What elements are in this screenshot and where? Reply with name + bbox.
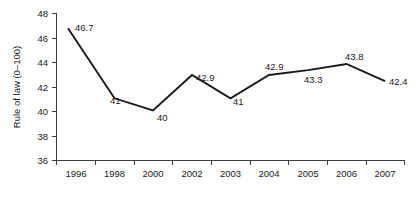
x-tick-label-1996: 1996 [65,168,86,179]
y-tick-label: 38 [37,131,48,142]
data-label-2007: 42.4 [389,76,408,87]
data-label-2006: 43.8 [345,51,364,62]
data-label-1996: 46.7 [75,22,94,33]
y-tick-label: 48 [37,8,48,19]
x-tick-label-2006: 2006 [336,168,357,179]
data-label-2003: 41 [233,96,244,107]
y-tick-label: 36 [37,155,48,166]
y-axis-title: Rule of law (0–100) [11,46,22,128]
y-tick-label: 44 [37,57,48,68]
data-point-labels: 46.7 41 40 42.9 41 42.9 43.3 43.8 42.4 [75,22,408,123]
x-tick-label-1998: 1998 [104,168,125,179]
x-axis-ticks [57,161,405,166]
x-tick-label-2000: 2000 [142,168,163,179]
x-tick-label-2007: 2007 [374,168,395,179]
data-label-2002: 42.9 [196,72,215,83]
data-label-2005: 43.3 [304,74,323,85]
y-tick-label: 42 [37,82,48,93]
x-tick-label-2002: 2002 [181,168,202,179]
x-tick-label-2005: 2005 [297,168,318,179]
y-axis-ticks [52,14,57,161]
y-axis-tick-labels: 48 46 44 42 40 38 36 [37,8,48,166]
y-tick-label: 46 [37,33,48,44]
x-tick-label-2003: 2003 [220,168,241,179]
data-label-2000: 40 [157,112,168,123]
data-label-1998: 41 [110,95,121,106]
x-axis-tick-labels: 1996 1998 2000 2002 2003 2004 2005 2006 … [65,168,395,179]
data-label-2004: 42.9 [265,61,284,72]
y-tick-label: 40 [37,106,48,117]
chart-plot-area: 48 46 44 42 40 38 36 Rule of law (0–100)… [0,0,420,198]
x-tick-label-2004: 2004 [258,168,279,179]
line-chart: 48 46 44 42 40 38 36 Rule of law (0–100)… [0,0,420,198]
